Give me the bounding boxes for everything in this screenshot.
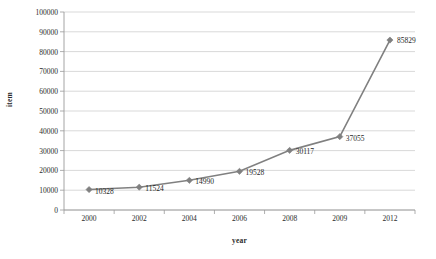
- data-value-label: 30117: [296, 147, 314, 156]
- x-tick-label: 2000: [82, 214, 97, 223]
- chart-title: [0, 0, 436, 3]
- data-value-label: 14990: [195, 177, 214, 186]
- y-tick-label: 100000: [10, 8, 58, 17]
- line-chart: item 10000090000800007000060000500004000…: [0, 0, 436, 259]
- x-tick-label: 2008: [282, 214, 297, 223]
- y-tick-label: 50000: [10, 107, 58, 116]
- data-value-label: 10328: [95, 187, 114, 196]
- y-tick-label: 30000: [10, 146, 58, 155]
- y-tick-label: 40000: [10, 126, 58, 135]
- x-axis-title: year: [64, 236, 415, 245]
- x-tick-label: 2002: [132, 214, 147, 223]
- y-tick-label: 10000: [10, 186, 58, 195]
- data-value-label: 19528: [246, 168, 265, 177]
- x-tick-label: 2012: [382, 214, 397, 223]
- data-value-label: 37055: [346, 134, 365, 143]
- x-tick-label: 2006: [232, 214, 247, 223]
- y-tick-label: 20000: [10, 166, 58, 175]
- y-tick-label: 90000: [10, 27, 58, 36]
- y-axis-tick-labels: 1000009000080000700006000050000400003000…: [10, 12, 58, 210]
- x-tick-label: 2004: [182, 214, 197, 223]
- y-tick-label: 80000: [10, 47, 58, 56]
- data-value-label: 85829: [397, 36, 416, 45]
- data-value-labels: 10328115241499019528301173705585829: [64, 12, 415, 210]
- y-tick-label: 0: [10, 206, 58, 215]
- data-value-label: 11524: [145, 184, 163, 193]
- x-tick-label: 2009: [332, 214, 347, 223]
- y-tick-label: 70000: [10, 67, 58, 76]
- y-tick-label: 60000: [10, 87, 58, 96]
- x-axis-tick-labels: 2000200220042006200820092012: [64, 214, 415, 228]
